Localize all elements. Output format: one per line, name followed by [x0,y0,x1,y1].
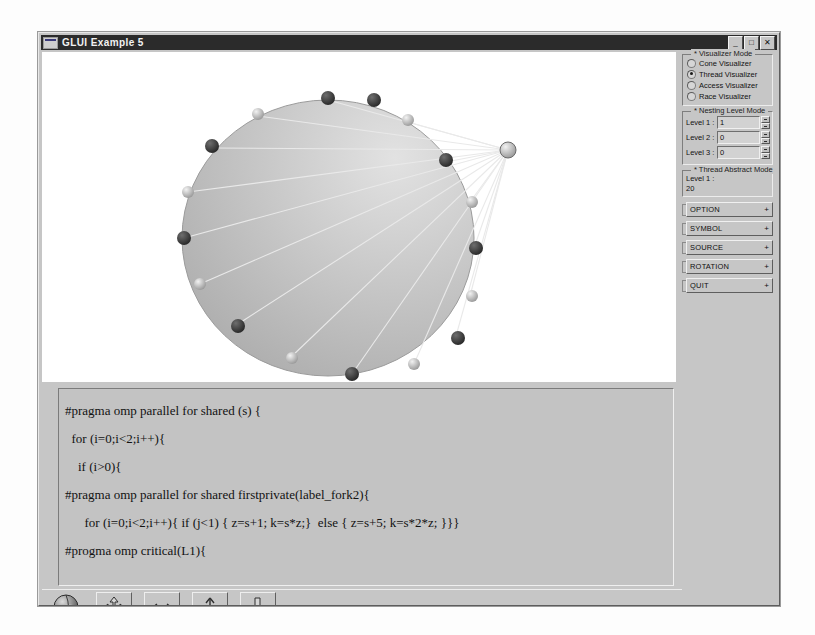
nesting-level-2-row: Level 2 : 0 [686,131,770,144]
code-line: #progma omp critical(L1){ [65,537,667,565]
radio-icon [687,59,696,68]
toolbar-button-objects[interactable]: Objects [48,590,84,606]
window-icon [43,37,58,49]
control-panel: * Visualizer Mode Cone Visualizer Thread… [679,52,776,602]
code-line: #pragma omp parallel for shared firstpri… [65,481,667,509]
code-line: for (i=0;i<2;i++){ [65,425,667,453]
rollout-symbol-label: SYMBOL [690,224,722,233]
radio-label: Access Visualizer [699,81,758,90]
opengl-3d-viewport[interactable] [42,52,676,382]
radio-cone-visualizer[interactable]: Cone Visualizer [687,58,770,68]
spinner-down-icon[interactable] [761,138,770,145]
nesting-level-mode-panel: * Nesting Level Mode Level 1 : 1 Level 2… [682,111,773,165]
object-toolbar: Objects Objects XY Objects X [42,589,682,606]
rollout-source-label: SOURCE [690,243,723,252]
expand-icon[interactable]: + [764,263,769,271]
nesting-level-3-row: Level 3 : 0 [686,146,770,159]
radio-race-visualizer[interactable]: Race Visualizer [687,91,770,101]
thread-abstract-mode-title: * Thread Abstract Mode [691,165,776,174]
nesting-level-1-label: Level 1 : [686,118,717,127]
window-buttons: _ □ ✕ [728,36,777,50]
thread-abstract-mode-panel: * Thread Abstract Mode Level 1 : 20 [682,170,773,197]
nesting-level-3-spinner[interactable] [761,146,770,159]
toolbar-button-objects-y[interactable]: Objects Y [192,590,228,606]
thread-abstract-level-label: Level 1 : [686,174,770,183]
close-button[interactable]: ✕ [760,36,775,50]
expand-icon[interactable]: + [764,225,769,233]
radio-icon-selected [687,70,696,79]
visualizer-mode-title: * Visualizer Mode [691,49,755,58]
radio-icon [687,81,696,90]
nesting-level-1-spinner[interactable] [761,116,770,129]
toolbar-button-objects-xy[interactable]: Objects XY [96,590,132,606]
glui-application-window: GLUI Example 5 _ □ ✕ [38,32,780,606]
rollout-symbol[interactable]: SYMBOL + [686,221,773,236]
maximize-button[interactable]: □ [744,36,759,50]
minimize-button[interactable]: _ [728,36,743,50]
arrows-xy-icon[interactable] [96,592,132,606]
nesting-level-2-label: Level 2 : [686,133,717,142]
cone-body [182,100,474,376]
rollout-quit[interactable]: QUIT + [686,278,773,293]
spinner-down-icon[interactable] [761,123,770,130]
nesting-level-2-spinner[interactable] [761,131,770,144]
toolbar-button-objects-x[interactable]: Objects X [144,590,180,606]
arrow-horizontal-icon[interactable] [144,592,180,606]
thread-abstract-level-value: 20 [686,184,770,193]
rollout-rotation[interactable]: ROTATION + [686,259,773,274]
window-title: GLUI Example 5 [62,37,144,48]
nesting-level-2-input[interactable]: 0 [717,131,760,144]
rollout-quit-label: QUIT [690,281,709,290]
radio-label: Thread Visualizer [699,70,757,79]
spinner-down-icon[interactable] [761,153,770,160]
title-bar[interactable]: GLUI Example 5 _ □ ✕ [41,35,777,50]
rollout-option-label: OPTION [690,205,720,214]
arrow-vertical-icon[interactable] [192,592,228,606]
nesting-level-3-input[interactable]: 0 [717,146,760,159]
code-line: #pragma omp parallel for shared (s) { [65,397,667,425]
nesting-level-1-input[interactable]: 1 [717,116,760,129]
arrow-depth-icon[interactable] [240,592,276,606]
expand-icon[interactable]: + [764,282,769,290]
radio-thread-visualizer[interactable]: Thread Visualizer [687,69,770,79]
rollout-option[interactable]: OPTION + [686,202,773,217]
expand-icon[interactable]: + [764,206,769,214]
nesting-level-mode-title: * Nesting Level Mode [691,106,768,115]
nesting-level-3-label: Level 3 : [686,148,717,157]
radio-icon [687,92,696,101]
radio-label: Race Visualizer [699,92,751,101]
sphere-icon[interactable] [49,592,83,606]
code-line: for (i=0;i<2;i++){ if (j<1) { z=s+1; k=s… [65,509,667,537]
radio-label: Cone Visualizer [699,59,751,68]
rollout-rotation-label: ROTATION [690,262,729,271]
toolbar-button-objects-z[interactable]: Objects Z [240,590,276,606]
code-line: if (i>0){ [65,453,667,481]
expand-icon[interactable]: + [764,244,769,252]
visualizer-mode-panel: * Visualizer Mode Cone Visualizer Thread… [682,54,773,106]
source-code-panel[interactable]: #pragma omp parallel for shared (s) { fo… [58,388,674,586]
thread-cone-scene [42,52,676,382]
rollout-source[interactable]: SOURCE + [686,240,773,255]
radio-access-visualizer[interactable]: Access Visualizer [687,80,770,90]
nesting-level-1-row: Level 1 : 1 [686,116,770,129]
